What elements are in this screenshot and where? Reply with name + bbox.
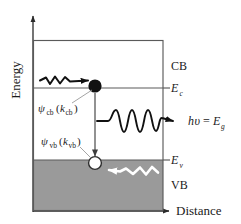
psi-vb-symbol: ψ [41, 135, 48, 147]
psi-cb-k-subscript: cb [66, 108, 73, 117]
photon-emission-arrow [97, 110, 173, 132]
electron-injection-arrow [40, 77, 88, 85]
photon-h-symbol: h [188, 114, 194, 128]
x-axis-label: Distance [176, 203, 222, 218]
photon-energy-label: h υ = E g [188, 114, 225, 131]
psi-vb-close-paren: ) [77, 135, 81, 148]
valence-edge-symbol: E [170, 153, 179, 167]
psi-cb-label: ψ cb ( k cb ) [38, 102, 78, 117]
conduction-edge-label: E c [170, 81, 184, 98]
psi-vb-k-subscript: vb [69, 141, 77, 150]
photon-eg-symbol: E [212, 114, 221, 128]
conduction-edge-subscript: c [180, 89, 184, 98]
y-axis-label: Energy [8, 61, 23, 99]
band-diagram-figure: Energy Distance CB E c E v VB ψ cb ( k c… [0, 0, 241, 224]
psi-cb-symbol: ψ [38, 102, 45, 114]
conduction-edge-symbol: E [170, 81, 179, 95]
valence-edge-label: E v [170, 153, 184, 170]
band-structure [34, 41, 171, 211]
psi-vb-leader-line [80, 147, 92, 159]
photon-equals-sign: = [203, 114, 210, 128]
conduction-band-label: CB [171, 59, 187, 73]
electron-injection-wave [40, 77, 88, 85]
photon-eg-subscript: g [221, 122, 225, 131]
diagram-canvas: Energy Distance CB E c E v VB ψ cb ( k c… [0, 0, 241, 224]
photon-sine-wave [97, 110, 173, 132]
hole-marker [89, 157, 102, 170]
psi-cb-close-paren: ) [74, 102, 78, 115]
valence-edge-subscript: v [180, 161, 184, 170]
valence-band-label: VB [171, 178, 188, 192]
psi-cb-subscript: cb [47, 108, 54, 117]
psi-vb-subscript: vb [50, 141, 58, 150]
psi-vb-label: ψ vb ( k vb ) [41, 135, 81, 150]
photon-nu-symbol: υ [195, 114, 201, 128]
